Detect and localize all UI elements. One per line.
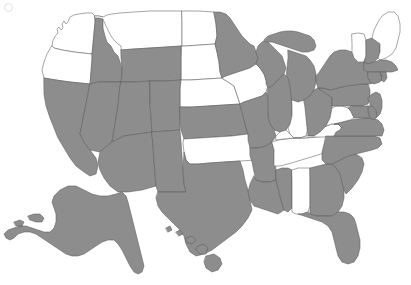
state-VT[interactable]: Vermont bbox=[352, 33, 366, 62]
state-AK[interactable]: Alaska bbox=[4, 186, 144, 274]
state-AL[interactable]: Alabama bbox=[292, 168, 310, 214]
state-SD[interactable]: South Dakota bbox=[181, 44, 222, 80]
us-map[interactable]: Washington Oregon Idaho Montana North Da… bbox=[0, 0, 411, 285]
state-CO[interactable]: Colorado bbox=[150, 80, 181, 132]
state-WY[interactable]: Wyoming bbox=[121, 46, 181, 82]
state-CT[interactable]: Connecticut bbox=[368, 72, 382, 84]
state-NM[interactable]: New Mexico bbox=[152, 130, 186, 192]
state-WA[interactable]: Washington bbox=[52, 13, 95, 54]
state-FL[interactable]: Florida bbox=[298, 212, 360, 264]
us-map-container: Washington Oregon Idaho Montana North Da… bbox=[0, 0, 411, 285]
corner-artifact-icon bbox=[4, 3, 13, 12]
state-KS[interactable]: Kansas bbox=[180, 104, 248, 139]
state-OK[interactable]: Oklahoma bbox=[183, 134, 256, 164]
state-ND[interactable]: North Dakota bbox=[182, 11, 217, 46]
